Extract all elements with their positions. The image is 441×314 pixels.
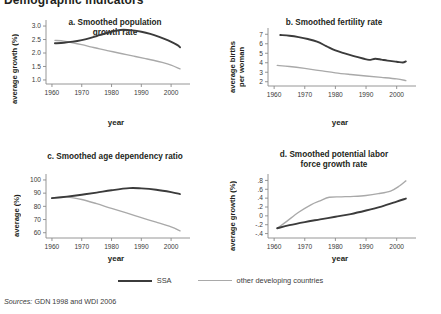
plot-area-c: 6070809010019601970198019902000 (20, 170, 194, 254)
legend-label-ssa: SSA (157, 276, 172, 285)
x-axis-label-d: year (268, 254, 412, 263)
panel-title-d: d. Smoothed potential labor force growth… (246, 150, 422, 170)
x-tick-label-c-1: 1970 (74, 243, 89, 250)
y-tick-label-b-4: 6 (259, 40, 263, 47)
y-tick-label-a-4: 3.0 (32, 22, 41, 29)
x-tick-label-b-2: 1980 (328, 91, 343, 98)
x-tick-label-c-2: 1980 (104, 243, 119, 250)
x-tick-label-a-1: 1970 (74, 89, 89, 96)
x-tick-label-c-4: 2000 (164, 243, 179, 250)
y-axis-label-d: average growth (%) (228, 168, 237, 264)
legend-line-swatch-other (198, 280, 232, 281)
x-tick-label-b-3: 1990 (359, 91, 374, 98)
y-tick-label-d-5: .6 (258, 186, 264, 193)
y-tick-label-c-3: 90 (34, 189, 42, 196)
y-tick-label-c-4: 100 (30, 176, 41, 183)
x-axis-label-a: year (46, 118, 186, 127)
x-tick-label-d-2: 1980 (328, 243, 343, 250)
y-tick-label-d-4: .4 (258, 194, 264, 201)
x-tick-label-d-0: 1960 (267, 243, 282, 250)
legend-label-other-developing: other developing countries (237, 276, 324, 285)
legend-line-swatch-ssa (118, 280, 152, 282)
y-tick-label-d-2: 0 (259, 212, 263, 219)
y-tick-label-a-2: 2.0 (32, 49, 41, 56)
y-tick-label-a-3: 2.5 (32, 36, 41, 43)
source-prefix: Sources: (4, 297, 32, 306)
y-tick-label-d-3: .2 (258, 203, 264, 210)
x-tick-label-b-4: 2000 (389, 91, 404, 98)
y-tick-label-b-5: 7 (259, 31, 263, 38)
legend-item-ssa: SSA (118, 276, 172, 285)
y-tick-label-b-1: 3 (259, 69, 263, 76)
x-tick-label-d-3: 1990 (359, 243, 374, 250)
legend-item-other-developing: other developing countries (198, 276, 324, 285)
x-tick-label-d-1: 1970 (297, 243, 312, 250)
y-tick-label-a-0: 1.0 (32, 76, 41, 83)
series-line-a-ssa (55, 30, 180, 48)
x-axis-label-b: year (268, 118, 412, 127)
figure-legend: SSA other developing countries (0, 276, 441, 285)
x-tick-label-a-2: 1980 (104, 89, 119, 96)
y-tick-label-c-2: 80 (34, 203, 42, 210)
x-tick-label-a-0: 1960 (45, 89, 60, 96)
y-tick-label-d-1: -.2 (255, 221, 263, 228)
x-tick-label-d-4: 2000 (389, 243, 404, 250)
y-tick-label-d-0: -.4 (255, 230, 263, 237)
y-tick-label-a-1: 1.5 (32, 63, 41, 70)
plot-area-b: 23456719601970198019902000 (242, 24, 420, 102)
plot-area-a: 1.01.52.02.53.019601970198019902000 (20, 16, 194, 100)
source-note: Sources: GDN 1998 and WDI 2006 (4, 297, 116, 306)
series-line-a-other-developing (55, 40, 180, 69)
series-line-c-other-developing (52, 197, 180, 231)
figure-demographic-indicators: Demographic indicators a. Smoothed popul… (0, 0, 441, 314)
panel-title-c: c. Smoothed age dependency ratio (20, 152, 210, 162)
x-axis-label-c: year (46, 254, 186, 263)
x-tick-label-a-4: 2000 (164, 89, 179, 96)
y-tick-label-c-0: 60 (34, 229, 42, 236)
series-line-c-ssa (52, 188, 180, 198)
y-tick-label-d-6: .8 (258, 177, 264, 184)
y-axis-label-a: average growth (%) (10, 26, 19, 112)
figure-main-title: Demographic indicators (4, 0, 144, 7)
series-line-b-other-developing (277, 65, 406, 80)
x-tick-label-b-0: 1960 (267, 91, 282, 98)
x-tick-label-c-3: 1990 (134, 243, 149, 250)
y-tick-label-b-0: 2 (259, 78, 263, 85)
source-text: GDN 1998 and WDI 2006 (34, 297, 116, 306)
x-tick-label-a-3: 1990 (134, 89, 149, 96)
series-line-b-ssa (280, 35, 406, 63)
x-tick-label-b-1: 1970 (297, 91, 312, 98)
plot-area-d: -.4-.20.2.4.6.819601970198019902000 (242, 170, 420, 254)
y-tick-label-c-1: 70 (34, 216, 42, 223)
y-tick-label-b-3: 5 (259, 50, 263, 57)
y-tick-label-b-2: 4 (259, 59, 263, 66)
x-tick-label-c-0: 1960 (45, 243, 60, 250)
